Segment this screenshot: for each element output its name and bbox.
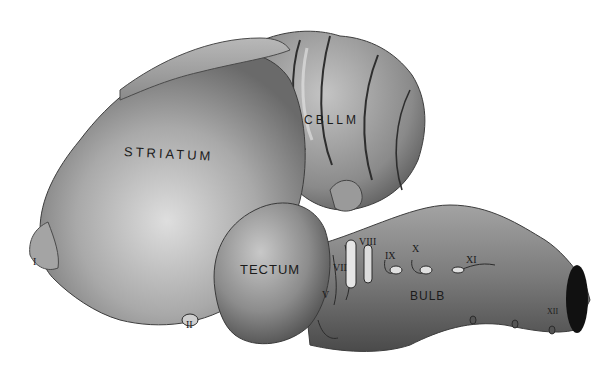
brain-illustration: STRIATUM CBLLM TECTUM BULB I II V VII VI…	[0, 0, 610, 368]
nerve-label-VIII: VIII	[359, 236, 376, 247]
label-bulb: BULB	[410, 289, 445, 303]
cut-surface	[566, 265, 588, 333]
flocculus	[330, 180, 362, 211]
brain-drawing	[0, 0, 610, 368]
nerve-label-XII: XII	[547, 307, 558, 316]
bulb-shape	[300, 205, 590, 351]
nerve-label-XI: XI	[466, 254, 477, 265]
label-cerebellum: CBLLM	[304, 113, 359, 127]
nerve-label-V: V	[322, 289, 329, 300]
label-tectum: TECTUM	[240, 262, 300, 277]
nerve-label-II: II	[186, 319, 193, 330]
nerve-label-IX: IX	[385, 250, 396, 261]
nerve-label-X: X	[412, 243, 419, 254]
nerve-label-VII: VII	[333, 262, 347, 273]
nerve-label-I: I	[33, 256, 36, 267]
